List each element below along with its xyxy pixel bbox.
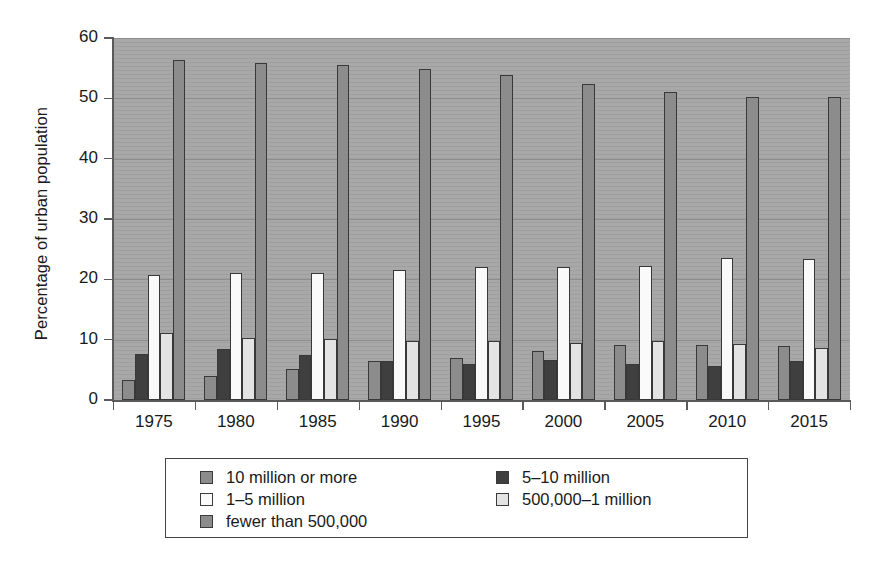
plot-area [113,38,850,400]
legend-swatch-icon [200,493,213,506]
bar [803,259,816,400]
legend-item-label: fewer than 500,000 [226,512,367,531]
bar [381,361,394,400]
x-axis-tick-label: 1995 [442,412,522,432]
gridline [113,38,850,39]
bar [544,360,557,400]
x-axis-tick [604,401,605,410]
y-axis-tick-label: 30 [52,208,98,228]
bar [324,339,337,400]
x-axis-tick-label: 2000 [523,412,603,432]
legend-item-label: 1–5 million [226,490,305,509]
x-axis-tick-label: 1990 [360,412,440,432]
bar [463,364,476,400]
y-axis-line [112,37,114,401]
x-axis-tick [850,401,851,410]
bar [557,267,570,400]
bar [570,343,583,400]
x-axis-tick [359,401,360,410]
bar [311,273,324,400]
y-axis-tick-label: 10 [52,329,98,349]
bar [614,345,627,400]
bar [122,380,135,401]
bar [406,341,419,400]
bar [500,75,513,400]
bar [242,338,255,400]
bar [582,84,595,400]
bar [721,258,734,400]
bar [488,341,501,400]
y-axis-title: Percentage of urban population [32,39,51,409]
x-axis-tick-label: 1985 [278,412,358,432]
bar [419,69,432,400]
y-axis-tick-label: 50 [52,87,98,107]
bar [230,273,243,400]
bar [778,346,791,400]
legend-swatch-icon [496,471,509,484]
legend-column-left: 10 million or more1–5 millionfewer than … [200,467,367,533]
bar [337,65,350,400]
y-axis-tick-label: 0 [52,389,98,409]
bar [746,97,759,400]
x-axis-tick [277,401,278,410]
bar [204,376,217,400]
bar [664,92,677,400]
y-axis-tick-label: 60 [52,27,98,47]
gridline [113,159,850,160]
legend-item: 10 million or more [200,467,367,488]
bar [696,345,709,401]
gridline [113,98,850,99]
legend-item-label: 10 million or more [226,468,357,487]
bar-chart-figure: Percentage of urban population 010203040… [0,0,872,564]
bar [217,349,230,400]
bar [393,270,406,400]
chart-legend: 10 million or more1–5 millionfewer than … [165,458,748,538]
legend-item: 5–10 million [496,467,651,488]
bar [708,366,721,400]
x-axis-tick [686,401,687,410]
bar [815,348,828,400]
x-axis-tick [195,401,196,410]
bar [160,333,173,400]
bar [286,369,299,400]
x-axis-tick [441,401,442,410]
legend-swatch-icon [200,515,213,528]
bar [255,63,268,400]
bar [299,355,312,400]
legend-swatch-icon [496,493,509,506]
bar [639,266,652,400]
gridline [113,219,850,220]
bar [475,267,488,400]
bar [652,341,665,400]
legend-item: fewer than 500,000 [200,511,367,532]
x-axis-tick [768,401,769,410]
x-axis-tick-label: 2015 [769,412,849,432]
bar [173,60,186,400]
bar [828,97,841,400]
x-axis-tick-label: 1980 [196,412,276,432]
x-axis-tick [113,401,114,410]
bar [450,358,463,400]
legend-item-label: 5–10 million [522,468,610,487]
x-axis-tick-label: 2010 [687,412,767,432]
y-axis-tick-label: 20 [52,268,98,288]
x-axis-tick-label: 1975 [114,412,194,432]
bar [135,354,148,400]
bar [790,361,803,400]
x-axis-tick-label: 2005 [605,412,685,432]
bar [532,351,545,400]
legend-item: 500,000–1 million [496,489,651,510]
x-axis-line [112,400,851,402]
bar [733,344,746,400]
legend-swatch-icon [200,471,213,484]
y-axis-tick-label: 40 [52,148,98,168]
bar [148,275,161,400]
legend-column-right: 5–10 million500,000–1 million [496,467,651,511]
bar [626,364,639,400]
legend-item-label: 500,000–1 million [522,490,651,509]
legend-item: 1–5 million [200,489,367,510]
x-axis-tick [522,401,523,410]
bar [368,361,381,400]
